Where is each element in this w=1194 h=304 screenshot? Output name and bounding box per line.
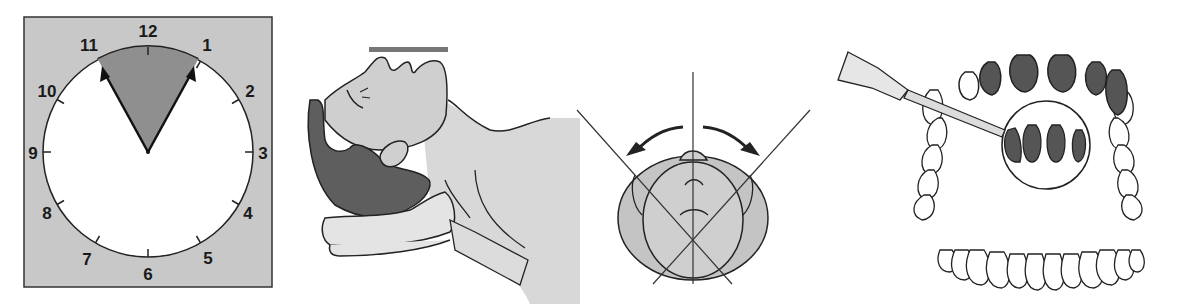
svg-text:10: 10: [38, 82, 57, 101]
svg-text:8: 8: [42, 204, 51, 223]
teeth-panel: [820, 0, 1194, 304]
svg-text:1: 1: [202, 36, 211, 55]
svg-text:7: 7: [82, 250, 91, 269]
teeth-diagram: [820, 0, 1194, 304]
head-rotation-panel: [560, 0, 820, 304]
svg-text:12: 12: [139, 22, 158, 41]
lower-arch: [938, 250, 1144, 290]
head-extension-panel: [280, 0, 580, 304]
reference-lines: [577, 72, 810, 284]
applicator-swab: [838, 52, 1005, 137]
svg-text:11: 11: [80, 36, 98, 55]
svg-text:9: 9: [28, 144, 37, 163]
svg-text:4: 4: [243, 204, 253, 223]
bar-marker: [369, 47, 448, 52]
svg-text:3: 3: [258, 144, 267, 163]
svg-text:5: 5: [203, 249, 212, 268]
clock-panel: 12 1 2 3 4 5 6 7 8 9 10 11: [0, 0, 290, 304]
clock-diagram: 12 1 2 3 4 5 6 7 8 9 10 11: [0, 0, 290, 304]
svg-text:6: 6: [143, 265, 152, 284]
head-extension-diagram: [280, 0, 580, 304]
svg-text:2: 2: [245, 82, 254, 101]
face: [325, 57, 447, 150]
head-rotation-diagram: [560, 0, 820, 304]
